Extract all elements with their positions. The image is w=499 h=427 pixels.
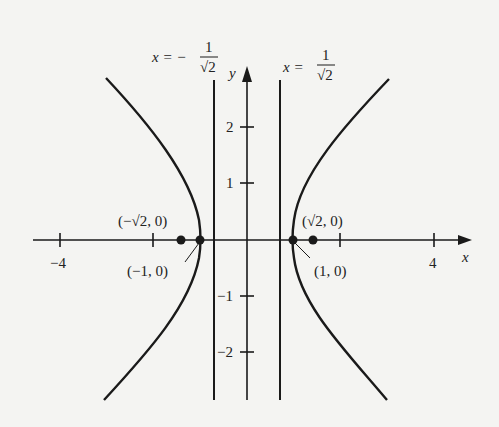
hyperbola-diagram: −4 4 2 1 −1 −2 x y (−√2, 0) (−1, 0) (1, … <box>0 0 499 427</box>
point-sqrt2 <box>309 236 318 245</box>
svg-text:x =: x = <box>282 59 304 75</box>
y-axis-label: y <box>227 65 236 81</box>
svg-text:1: 1 <box>205 39 213 55</box>
left-asymptote-label: x = − 1 √2 <box>151 39 218 75</box>
svg-text:1: 1 <box>322 47 330 63</box>
x-axis-arrow-icon <box>458 235 472 245</box>
point-neg1 <box>196 236 205 245</box>
leader-neg1 <box>185 243 199 262</box>
label-neg-sqrt2: (−√2, 0) <box>118 213 167 230</box>
label-1: (1, 0) <box>314 263 347 280</box>
y-axis-arrow-icon <box>242 66 252 82</box>
x-tick-label-4: 4 <box>429 255 437 271</box>
y-tick-label-2: 2 <box>226 119 234 135</box>
y-axis <box>240 66 254 400</box>
svg-text:√2: √2 <box>200 59 216 75</box>
label-sqrt2: (√2, 0) <box>302 213 343 230</box>
x-tick-label-neg4: −4 <box>50 255 66 271</box>
x-axis <box>33 233 472 247</box>
point-neg-sqrt2 <box>177 236 186 245</box>
leader-1 <box>295 243 310 258</box>
label-neg1: (−1, 0) <box>127 263 168 280</box>
point-1 <box>289 236 298 245</box>
svg-text:√2: √2 <box>317 67 333 83</box>
svg-text:x = −: x = − <box>151 49 186 65</box>
y-tick-label-1: 1 <box>226 175 234 191</box>
right-asymptote-label: x = 1 √2 <box>282 47 335 83</box>
y-tick-label-neg1: −1 <box>217 288 233 304</box>
y-tick-label-neg2: −2 <box>217 344 233 360</box>
x-axis-label: x <box>461 249 469 265</box>
